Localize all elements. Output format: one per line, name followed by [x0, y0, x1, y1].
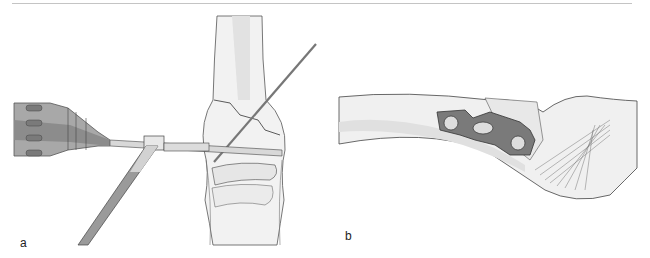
- panel-b: b: [325, 0, 650, 258]
- screw-hole-1: [444, 116, 458, 130]
- plate-illustration: [325, 0, 650, 258]
- screw-hole-3: [511, 136, 525, 150]
- screw-hole-2: [473, 122, 493, 134]
- drill-illustration: [0, 0, 325, 258]
- panel-label-b: b: [345, 229, 352, 243]
- panel-label-a: a: [20, 236, 27, 250]
- panel-a: a: [0, 0, 325, 258]
